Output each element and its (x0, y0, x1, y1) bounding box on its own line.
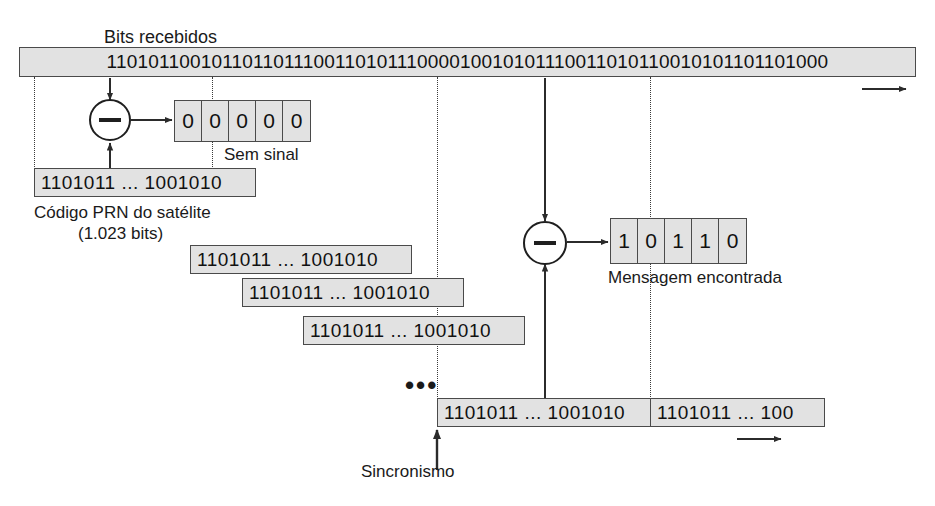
guide-line-sincronismo (437, 77, 438, 407)
prn-shift-box-2: 1101011 ... 1001010 (242, 278, 464, 307)
no-signal-cell: 0 (256, 101, 283, 141)
message-cell: 1 (665, 219, 692, 263)
received-bits-stream: 1101011001011011011100110101110000100101… (19, 47, 916, 77)
no-signal-cell: 0 (202, 101, 229, 141)
received-bits-label: Bits recebidos (104, 27, 217, 48)
prn-shift-box-3: 1101011 ... 1001010 (303, 316, 525, 345)
prn-caption-line2: (1.023 bits) (78, 224, 163, 244)
aligned-prn-left: 1101011 ... 1001010 (437, 398, 651, 427)
message-cell: 1 (611, 219, 638, 263)
minus-icon (534, 241, 556, 245)
no-signal-cell: 0 (283, 101, 310, 141)
sincronismo-label: Sincronismo (361, 462, 455, 482)
no-signal-result: 0 0 0 0 0 (174, 100, 311, 142)
prn-shift-box-1: 1101011 ... 1001010 (190, 245, 412, 274)
diagram-canvas: Bits recebidos 1101011001011011011100110… (0, 0, 935, 506)
prn-caption-line1: Código PRN do satélite (34, 203, 211, 223)
found-message-caption: Mensagem encontrada (608, 268, 782, 288)
message-cell: 0 (719, 219, 746, 263)
no-signal-cell: 0 (229, 101, 256, 141)
guide-line-left (34, 77, 35, 175)
subtract-operator-left (89, 99, 131, 141)
found-message-result: 1 0 1 1 0 (610, 218, 747, 264)
subtract-operator-right (523, 221, 567, 265)
prn-code-box: 1101011 ... 1001010 (34, 168, 256, 197)
message-cell: 1 (692, 219, 719, 263)
ellipsis-indicator: ••• (405, 372, 438, 398)
no-signal-cell: 0 (175, 101, 202, 141)
no-signal-caption: Sem sinal (224, 145, 299, 165)
aligned-prn-right: 1101011 ... 100 (650, 398, 825, 427)
message-cell: 0 (638, 219, 665, 263)
minus-icon (99, 118, 121, 122)
